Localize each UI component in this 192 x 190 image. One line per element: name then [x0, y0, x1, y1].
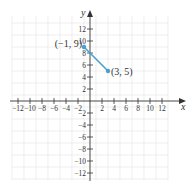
x-tick-label: 12 [158, 104, 166, 113]
y-tick-label: −10 [74, 157, 86, 166]
y-tick-label: 6 [82, 61, 86, 70]
coordinate-plane: x y −12−10−8−6−4−22468101212108642−2−4−6… [0, 0, 192, 190]
x-tick-label: −6 [50, 104, 58, 113]
endpoint-dot [82, 45, 86, 49]
y-tick-label: −6 [78, 133, 86, 142]
y-tick-label: 8 [82, 49, 86, 58]
x-tick-label: 4 [112, 104, 116, 113]
point-label: (3, 5) [111, 66, 133, 78]
y-tick-label: 2 [82, 85, 86, 94]
y-tick-label: −4 [78, 121, 86, 130]
x-tick-label: 6 [124, 104, 128, 113]
y-tick-label: −8 [78, 145, 86, 154]
x-tick-label: 10 [146, 104, 154, 113]
y-tick-label: −2 [78, 109, 86, 118]
y-tick-label: 12 [79, 25, 87, 34]
data-series: (−1, 9)(3, 5) [55, 38, 133, 78]
x-tick-label: 2 [100, 104, 104, 113]
point-label: (−1, 9) [55, 38, 82, 50]
x-tick-label: −10 [24, 104, 36, 113]
y-tick-label: −12 [74, 169, 86, 178]
y-axis-label: y [80, 7, 86, 18]
x-tick-label: 8 [136, 104, 140, 113]
x-axis-label: x [180, 101, 186, 112]
endpoint-dot [106, 69, 110, 73]
y-axis-arrow-icon [87, 10, 93, 17]
x-tick-label: −12 [12, 104, 24, 113]
y-tick-label: 4 [82, 73, 86, 82]
x-tick-label: −4 [62, 104, 70, 113]
x-tick-label: −8 [38, 104, 46, 113]
